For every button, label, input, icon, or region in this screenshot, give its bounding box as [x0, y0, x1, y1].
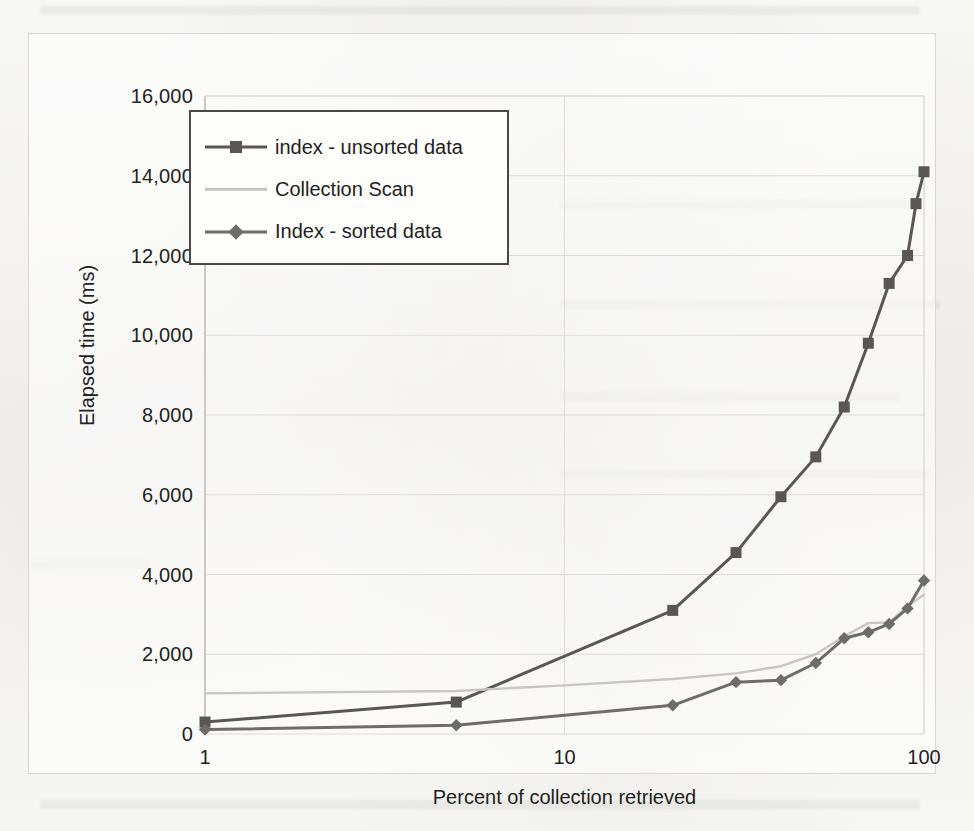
x-axis-tick-label: 10 [553, 746, 575, 769]
data-point-marker [775, 491, 786, 502]
x-axis-title: Percent of collection retrieved [205, 786, 924, 809]
y-axis-tick-label: 8,000 [142, 404, 193, 427]
ghost-text [40, 6, 920, 15]
x-axis-tick-label: 100 [907, 746, 940, 769]
legend-marker-square-icon [230, 141, 242, 153]
y-axis-tick-label: 16,000 [131, 85, 193, 108]
data-point-marker [775, 674, 787, 686]
data-point-marker [450, 719, 462, 731]
chart-legend: index - unsorted dataCollection ScanInde… [189, 110, 509, 265]
data-point-marker [810, 451, 821, 462]
y-axis-tick-label: 10,000 [131, 324, 193, 347]
y-axis-tick-label: 6,000 [142, 483, 193, 506]
chart-frame: 02,0004,0006,0008,00010,00012,00014,0001… [28, 33, 936, 774]
y-axis-tick-label: 12,000 [131, 244, 193, 267]
x-axis-tick-labels: 110100 [205, 746, 924, 774]
data-point-marker [918, 574, 930, 586]
legend-swatch-icon [205, 179, 267, 199]
y-axis-tick-label: 14,000 [131, 164, 193, 187]
data-point-marker [863, 338, 874, 349]
legend-item-label: Collection Scan [275, 178, 414, 201]
y-axis-tick-label: 2,000 [142, 643, 193, 666]
data-point-marker [667, 605, 678, 616]
legend-item[interactable]: index - unsorted data [205, 130, 497, 164]
data-point-marker [862, 626, 874, 638]
y-axis-title: Elapsed time (ms) [76, 226, 99, 466]
y-axis-tick-label: 0 [182, 723, 193, 746]
data-point-marker [730, 676, 742, 688]
legend-marker-diamond-icon [228, 224, 244, 240]
data-point-marker [910, 198, 921, 209]
data-point-marker [731, 547, 742, 558]
legend-item[interactable]: Index - sorted data [205, 215, 497, 249]
data-point-marker [451, 697, 462, 708]
data-point-marker [667, 699, 679, 711]
data-point-marker [919, 166, 930, 177]
legend-item-label: index - unsorted data [275, 136, 463, 159]
legend-item-label: Index - sorted data [275, 220, 442, 243]
y-axis-tick-label: 4,000 [142, 563, 193, 586]
data-point-marker [839, 402, 850, 413]
x-axis-tick-label: 1 [199, 746, 210, 769]
legend-item[interactable]: Collection Scan [205, 172, 497, 206]
data-point-marker [884, 278, 895, 289]
legend-swatch-icon [205, 137, 267, 157]
data-point-marker [902, 250, 913, 261]
legend-swatch-icon [205, 222, 267, 242]
